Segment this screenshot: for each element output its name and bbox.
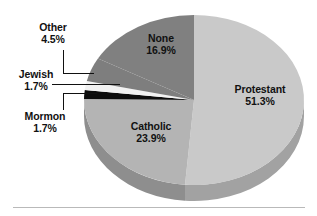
slice-label-protestant: Protestant 51.3% [218, 84, 302, 108]
slice-label-none-name: None [131, 33, 191, 45]
slice-label-catholic: Catholic 23.9% [113, 121, 189, 145]
slice-label-jewish-name: Jewish [2, 69, 70, 81]
slice-label-other-name: Other [18, 22, 88, 34]
pie-chart-figure: Other 4.5% Jewish 1.7% Mormon 1.7% None … [0, 0, 317, 216]
slice-label-jewish: Jewish 1.7% [2, 69, 70, 93]
slice-label-protestant-value: 51.3% [218, 96, 302, 108]
slice-label-none-value: 16.9% [131, 45, 191, 57]
slice-label-mormon-value: 1.7% [6, 123, 84, 135]
slice-label-other: Other 4.5% [18, 22, 88, 46]
slice-label-protestant-name: Protestant [218, 84, 302, 96]
slice-label-catholic-name: Catholic [113, 121, 189, 133]
baseline-rule [13, 207, 305, 208]
slice-label-none: None 16.9% [131, 33, 191, 57]
slice-label-jewish-value: 1.7% [2, 81, 70, 93]
slice-label-other-value: 4.5% [18, 34, 88, 46]
slice-label-mormon: Mormon 1.7% [6, 111, 84, 135]
slice-label-mormon-name: Mormon [6, 111, 84, 123]
slice-label-catholic-value: 23.9% [113, 133, 189, 145]
